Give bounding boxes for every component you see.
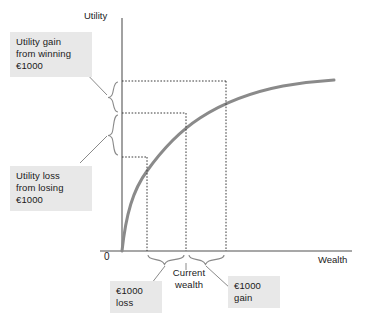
x-axis-label: Wealth xyxy=(318,254,347,266)
annotation-utility-loss: Utility loss from losing €1000 xyxy=(10,166,92,211)
utility-of-wealth-figure: Utility Wealth 0 Utility gain from winni… xyxy=(0,0,365,325)
brace-utility-loss xyxy=(108,115,118,155)
annotation-loss-bracket: €1000 loss xyxy=(110,281,162,313)
origin-label: 0 xyxy=(104,251,110,262)
brace-gain-span xyxy=(189,255,224,265)
annotation-utility-gain: Utility gain from winning €1000 xyxy=(10,32,92,77)
y-axis-label: Utility xyxy=(84,10,107,22)
brace-utility-gain xyxy=(108,82,118,112)
leader-utility-loss xyxy=(80,136,107,163)
annotation-gain-bracket: €1000 gain xyxy=(228,276,280,308)
utility-curve xyxy=(122,80,334,251)
annotation-current-wealth: Current wealth xyxy=(165,267,213,291)
brace-loss-span xyxy=(148,255,184,265)
